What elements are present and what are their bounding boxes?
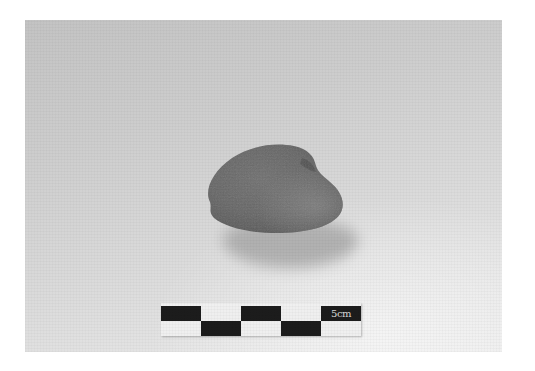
scale-segment bbox=[201, 306, 241, 321]
scale-segment bbox=[201, 321, 241, 336]
scale-bar: 5cm bbox=[161, 303, 361, 336]
scale-segment bbox=[281, 306, 321, 321]
scale-segment bbox=[321, 321, 361, 336]
artifact-photograph: 5cm bbox=[25, 20, 502, 352]
scale-bar-top-row: 5cm bbox=[161, 306, 361, 321]
stone-artifact bbox=[202, 142, 347, 234]
scale-segment bbox=[241, 321, 281, 336]
scale-label: 5cm bbox=[331, 309, 351, 319]
scale-segment bbox=[161, 306, 201, 321]
scale-bar-bottom-row bbox=[161, 321, 361, 336]
scale-segment bbox=[281, 321, 321, 336]
scale-segment-labeled: 5cm bbox=[321, 306, 361, 321]
scale-segment bbox=[241, 306, 281, 321]
scale-segment bbox=[161, 321, 201, 336]
